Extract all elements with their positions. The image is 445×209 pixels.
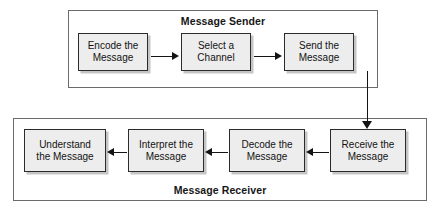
- arrow-right-icon: [275, 52, 282, 60]
- node-send-the-message[interactable]: Send the Message: [284, 33, 354, 71]
- node-decode-the-message[interactable]: Decode the Message: [229, 129, 305, 172]
- arrow-left-icon: [205, 148, 212, 156]
- arrow-left-icon: [306, 148, 313, 156]
- connector-encode-to-select: [151, 56, 173, 57]
- node-encode-the-message[interactable]: Encode the Message: [78, 33, 148, 71]
- group-sender-title: Message Sender: [69, 15, 377, 27]
- group-receiver-title: Message Receiver: [14, 184, 426, 196]
- node-interpret-the-message[interactable]: Interpret the Message: [128, 129, 204, 172]
- node-understand-label: Understand the Message: [36, 139, 93, 163]
- node-select-label: Select a Channel: [197, 40, 234, 64]
- node-receive-the-message[interactable]: Receive the Message: [330, 129, 406, 172]
- arrow-down-icon: [362, 121, 372, 129]
- communication-process-diagram: Message Sender Encode the Message Select…: [0, 0, 445, 209]
- connector-send-to-receive: [367, 71, 368, 123]
- arrow-left-icon: [107, 148, 114, 156]
- node-decode-label: Decode the Message: [241, 139, 292, 163]
- node-understand-the-message[interactable]: Understand the Message: [24, 129, 106, 172]
- node-interpret-label: Interpret the Message: [139, 139, 193, 163]
- arrow-right-icon: [172, 52, 179, 60]
- node-select-a-channel[interactable]: Select a Channel: [181, 33, 251, 71]
- node-send-label: Send the Message: [299, 40, 340, 64]
- node-receive-label: Receive the Message: [342, 139, 395, 163]
- connector-select-to-send: [254, 56, 276, 57]
- node-encode-label: Encode the Message: [88, 40, 139, 64]
